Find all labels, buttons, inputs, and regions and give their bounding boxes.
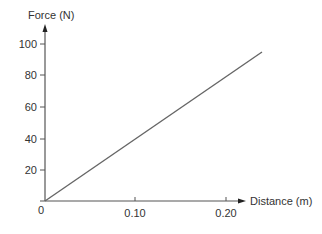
y-ticks: 20 40 60 80 100	[19, 38, 45, 176]
x-axis	[40, 199, 246, 204]
y-axis-title: Force (N)	[28, 9, 74, 21]
data-line	[45, 52, 262, 201]
chart-canvas: 20 40 60 80 100 0 0.10 0.20 Force (N) Di…	[0, 0, 322, 234]
y-tick-label: 100	[19, 38, 37, 50]
y-tick-label: 40	[25, 133, 37, 145]
y-tick-label: 20	[25, 164, 37, 176]
y-axis	[43, 24, 48, 201]
force-distance-chart: 20 40 60 80 100 0 0.10 0.20 Force (N) Di…	[0, 0, 322, 234]
x-tick-label: 0.10	[124, 207, 145, 219]
x-ticks: 0 0.10 0.20	[38, 197, 237, 219]
origin-label: 0	[38, 204, 44, 216]
y-axis-arrow-icon	[43, 24, 48, 32]
x-axis-title: Distance (m)	[250, 195, 312, 207]
x-axis-arrow-icon	[238, 199, 246, 204]
y-tick-label: 60	[25, 101, 37, 113]
x-tick-label: 0.20	[215, 207, 236, 219]
y-tick-label: 80	[25, 69, 37, 81]
